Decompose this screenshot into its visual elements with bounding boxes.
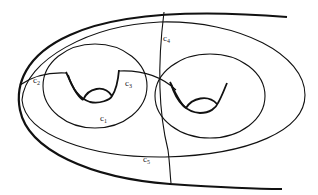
right-hole-upper	[170, 82, 217, 108]
right-hole-curve	[155, 54, 265, 138]
label-c2: c2	[33, 75, 40, 86]
left-hole-lower	[68, 70, 119, 103]
outer-boundary	[19, 13, 287, 189]
label-c5: c5	[143, 154, 150, 165]
surface-diagram: c2 c3 c1 c4 c5	[0, 0, 318, 195]
label-c4: c4	[163, 33, 170, 44]
label-c3: c3	[125, 78, 132, 89]
label-c1: c1	[100, 113, 107, 124]
